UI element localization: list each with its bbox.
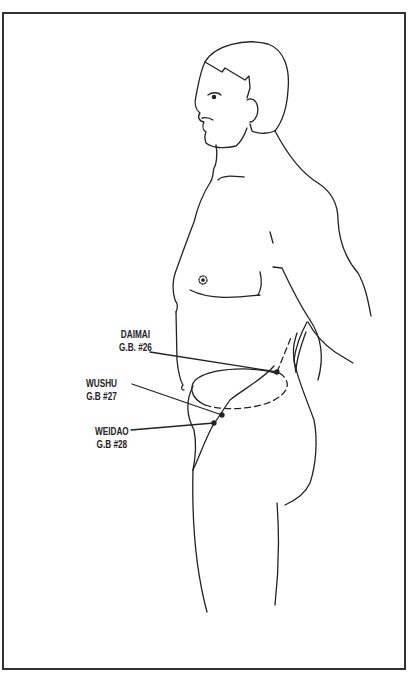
label-wushu: WUSHU G.B #27 — [86, 377, 117, 403]
label-wushu-code: G.B #27 — [86, 390, 117, 403]
label-daimai-name: DAIMAI — [119, 328, 152, 341]
label-weidao: WEIDAO G.B #28 — [95, 425, 129, 451]
wushu-leader-line — [132, 384, 222, 415]
figure-drawing — [0, 0, 413, 679]
daimai-leader-line — [150, 352, 277, 372]
label-daimai: DAIMAI G.B. #26 — [119, 328, 152, 354]
label-wushu-name: WUSHU — [86, 377, 117, 390]
torso — [173, 131, 371, 390]
label-weidao-name: WEIDAO — [95, 425, 129, 438]
head — [195, 42, 288, 148]
weidao-point-marker — [212, 421, 216, 425]
daimai-point-marker — [275, 370, 279, 374]
weidao-leader-line — [131, 423, 214, 430]
label-weidao-code: G.B #28 — [95, 438, 129, 451]
label-daimai-code: G.B. #26 — [119, 341, 152, 354]
wushu-point-marker — [220, 413, 224, 417]
